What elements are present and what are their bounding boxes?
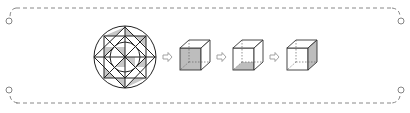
circle-pattern-figure <box>94 26 156 88</box>
arrow-icon <box>217 53 226 62</box>
corner-ring-icon <box>6 18 12 24</box>
diagram-canvas <box>0 0 410 113</box>
arrow-icon <box>163 53 172 62</box>
arrow-icon <box>270 53 279 62</box>
cube-front-shaded <box>180 40 210 70</box>
cube-bottom-shaded <box>233 40 263 70</box>
cube-right-shaded <box>287 40 317 70</box>
corner-ring-icon <box>398 87 404 93</box>
corner-ring-icon <box>6 87 12 93</box>
corner-ring-icon <box>398 18 404 24</box>
